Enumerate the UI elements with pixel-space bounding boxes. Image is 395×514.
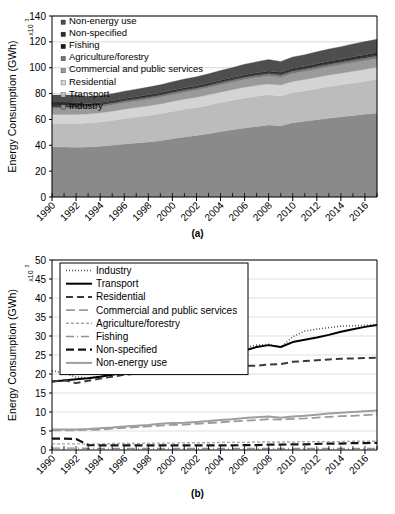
- svg-text:x10: x10: [27, 24, 34, 35]
- svg-text:1996: 1996: [106, 452, 130, 476]
- svg-text:40: 40: [35, 293, 47, 304]
- svg-text:60: 60: [35, 114, 47, 125]
- svg-text:2014: 2014: [323, 199, 347, 223]
- legend-swatch-agriculture-forestry: [61, 56, 66, 61]
- svg-text:1998: 1998: [130, 199, 154, 223]
- svg-text:140: 140: [29, 11, 46, 22]
- svg-text:2012: 2012: [299, 199, 323, 223]
- legend-label-residential: Residential: [69, 76, 116, 87]
- legend-label-non-specified: Non-specified: [69, 27, 127, 38]
- legend-swatch-commercial-and-public-services: [61, 68, 66, 73]
- svg-text:50: 50: [35, 255, 47, 266]
- svg-text:2014: 2014: [323, 452, 347, 476]
- legend-label-non-specified: Non-specified: [96, 344, 157, 355]
- svg-text:30: 30: [35, 331, 47, 342]
- legend-swatch-residential: [61, 81, 66, 86]
- svg-text:0: 0: [40, 445, 46, 456]
- svg-text:2016: 2016: [347, 452, 371, 476]
- svg-text:5: 5: [40, 426, 46, 437]
- svg-text:120: 120: [29, 36, 46, 47]
- svg-text:2008: 2008: [251, 452, 275, 476]
- legend-label-commercial-and-public-services: Commercial and public services: [69, 63, 203, 74]
- svg-text:100: 100: [29, 62, 46, 73]
- legend-swatch-non-specified: [61, 32, 66, 37]
- svg-text:45: 45: [35, 274, 47, 285]
- svg-text:3: 3: [24, 264, 30, 267]
- caption-b: (b): [0, 488, 395, 499]
- svg-text:35: 35: [35, 312, 47, 323]
- svg-text:2000: 2000: [154, 452, 178, 476]
- svg-text:2000: 2000: [154, 199, 178, 223]
- svg-text:20: 20: [35, 166, 47, 177]
- legend-label-commercial-and-public-services: Commercial and public services: [96, 305, 237, 316]
- svg-text:20: 20: [35, 369, 47, 380]
- svg-text:Energy Consumption (GWh): Energy Consumption (GWh): [6, 289, 18, 421]
- chart-b-svg: 0510152025303540455019901992199419961998…: [0, 250, 395, 498]
- caption-a: (a): [0, 228, 395, 239]
- svg-text:2010: 2010: [275, 452, 299, 476]
- svg-text:2010: 2010: [275, 199, 299, 223]
- svg-text:2006: 2006: [226, 452, 250, 476]
- svg-text:1990: 1990: [34, 199, 58, 223]
- legend-label-fishing: Fishing: [69, 39, 100, 50]
- chart-b-container: 0510152025303540455019901992199419961998…: [0, 250, 395, 514]
- legend-label-agriculture-forestry: Agriculture/forestry: [96, 318, 180, 329]
- svg-text:10: 10: [35, 407, 47, 418]
- legend-label-industry: Industry: [96, 265, 132, 276]
- svg-text:0: 0: [40, 192, 46, 203]
- legend-swatch-fishing: [61, 44, 66, 49]
- legend-label-agriculture-forestry: Agriculture/forestry: [69, 51, 149, 62]
- legend-label-fishing: Fishing: [96, 331, 128, 342]
- svg-text:2002: 2002: [178, 199, 202, 223]
- figure-page: 0204060801001201401990199219941996199820…: [0, 0, 395, 514]
- svg-text:40: 40: [35, 140, 47, 151]
- legend-label-residential: Residential: [96, 291, 145, 302]
- legend-label-non-energy-use: Non-energy use: [96, 357, 168, 368]
- legend-label-non-energy-use: Non-energy use: [69, 15, 137, 26]
- svg-text:2006: 2006: [226, 199, 250, 223]
- svg-text:1992: 1992: [58, 199, 82, 223]
- svg-text:25: 25: [35, 350, 47, 361]
- svg-text:Energy Consumption (GWh): Energy Consumption (GWh): [6, 41, 18, 173]
- svg-text:1992: 1992: [58, 452, 82, 476]
- legend-swatch-non-energy-use: [61, 20, 66, 25]
- chart-a-svg: 0204060801001201401990199219941996199820…: [0, 0, 395, 245]
- legend-swatch-transport: [61, 93, 66, 98]
- legend-label-transport: Transport: [96, 278, 139, 289]
- svg-text:3: 3: [24, 18, 30, 21]
- svg-text:1994: 1994: [82, 452, 106, 476]
- svg-text:80: 80: [35, 88, 47, 99]
- svg-text:1996: 1996: [106, 199, 130, 223]
- svg-text:1994: 1994: [82, 199, 106, 223]
- svg-text:1990: 1990: [34, 452, 58, 476]
- legend-label-transport: Transport: [69, 88, 110, 99]
- legend-swatch-industry: [61, 105, 66, 110]
- svg-text:15: 15: [35, 388, 47, 399]
- svg-text:2012: 2012: [299, 452, 323, 476]
- svg-text:2004: 2004: [202, 199, 226, 223]
- legend-label-industry: Industry: [69, 100, 103, 111]
- svg-text:2008: 2008: [251, 199, 275, 223]
- svg-text:x10: x10: [27, 270, 34, 281]
- svg-text:1998: 1998: [130, 452, 154, 476]
- chart-a-container: 0204060801001201401990199219941996199820…: [0, 0, 395, 245]
- svg-text:2004: 2004: [202, 452, 226, 476]
- svg-text:2016: 2016: [347, 199, 371, 223]
- svg-text:2002: 2002: [178, 452, 202, 476]
